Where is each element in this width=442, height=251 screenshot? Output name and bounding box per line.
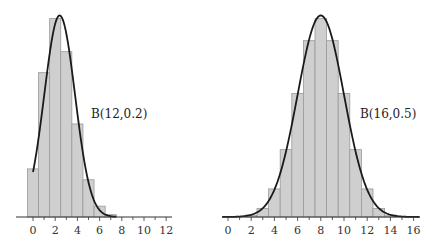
right-x-axis: 0246810121416 xyxy=(222,217,421,237)
left-tick-label-10: 10 xyxy=(137,224,151,237)
left-tick-label-2: 2 xyxy=(52,224,59,237)
right-tick-label-2: 2 xyxy=(248,224,255,237)
left-tick-label-12: 12 xyxy=(159,224,173,237)
left-tick-label-6: 6 xyxy=(96,224,103,237)
left-annotation: B(12,0.2) xyxy=(91,107,147,121)
left-bar-6 xyxy=(94,206,105,217)
left-bar-3 xyxy=(61,52,72,217)
right-tick-label-8: 8 xyxy=(317,224,324,237)
right-bar-13 xyxy=(373,208,385,217)
right-chart-b16: 0246810121416 B(16,0.5) xyxy=(222,16,421,237)
right-tick-label-12: 12 xyxy=(360,224,374,237)
right-bar-7 xyxy=(303,41,315,217)
left-tick-label-4: 4 xyxy=(74,224,81,237)
left-tick-label-0: 0 xyxy=(30,224,37,237)
left-tick-label-8: 8 xyxy=(118,224,125,237)
left-bar-0 xyxy=(27,169,38,217)
left-x-axis: 024681012 xyxy=(16,217,173,237)
right-tick-label-14: 14 xyxy=(383,224,397,237)
right-bar-4 xyxy=(269,189,281,217)
right-tick-label-0: 0 xyxy=(225,224,232,237)
right-tick-label-4: 4 xyxy=(271,224,278,237)
binomial-charts: 024681012 B(12,0.2) 0246810121416 B(16,0… xyxy=(0,0,442,251)
right-annotation: B(16,0.5) xyxy=(360,107,416,121)
right-bar-11 xyxy=(350,150,362,217)
right-bar-9 xyxy=(327,41,339,217)
right-bar-12 xyxy=(361,189,373,217)
right-tick-label-6: 6 xyxy=(294,224,301,237)
left-chart-b12: 024681012 B(12,0.2) xyxy=(16,16,173,237)
right-bar-3 xyxy=(257,208,269,217)
right-tick-label-10: 10 xyxy=(337,224,351,237)
right-bar-5 xyxy=(280,150,292,217)
right-tick-label-16: 16 xyxy=(407,224,421,237)
right-bar-8 xyxy=(315,19,327,217)
